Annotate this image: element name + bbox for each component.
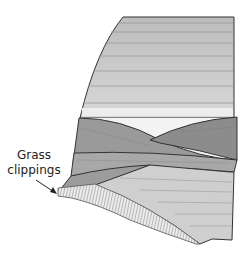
label-line-2: clippings bbox=[6, 163, 62, 178]
layered-diagram bbox=[0, 0, 244, 263]
upper-layers bbox=[80, 17, 234, 118]
grass-clippings-label: Grass clippings bbox=[6, 148, 62, 178]
annotation-arrow bbox=[36, 180, 57, 194]
label-line-1: Grass bbox=[6, 148, 62, 163]
